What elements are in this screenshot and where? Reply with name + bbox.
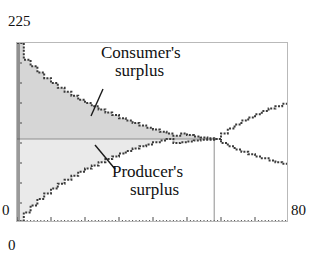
x-axis-ticks: [17, 217, 288, 222]
producer-surplus-label-line2: surplus: [112, 181, 183, 199]
consumer-surplus-label-line1: Consumer's: [101, 43, 181, 62]
producer-surplus-annotation: Producer's surplus: [112, 163, 183, 199]
consumer-surplus-annotation: Consumer's surplus: [101, 44, 181, 80]
consumer-surplus-label-line2: surplus: [101, 62, 181, 80]
y-axis-min-label: 0: [2, 203, 10, 218]
x-axis-min-label: 0: [8, 238, 16, 253]
y-axis-max-label: 225: [8, 14, 31, 29]
x-axis-max-label: 80: [291, 203, 306, 218]
chart-figure: 225 0 0 80: [0, 0, 309, 273]
producer-surplus-label-line1: Producer's: [112, 162, 183, 181]
